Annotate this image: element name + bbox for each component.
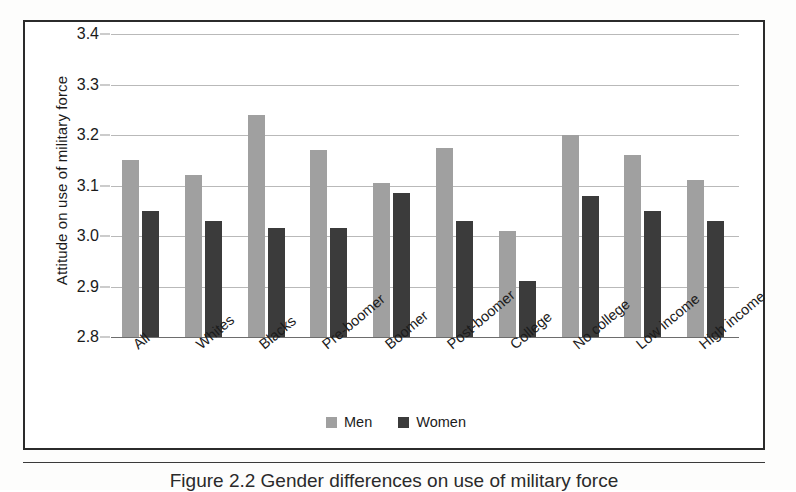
bar-group [248, 34, 285, 337]
bar-men [248, 115, 265, 337]
y-tick-mark [100, 286, 110, 287]
bar-group [185, 34, 222, 337]
bar-group [122, 34, 159, 337]
figure-frame: Attitude on use of military force 3.43.3… [23, 20, 765, 450]
legend-label: Men [344, 414, 372, 430]
bar-group [310, 34, 347, 337]
figure-caption: Figure 2.2 Gender differences on use of … [23, 470, 765, 492]
bar-men [499, 231, 516, 337]
bar-men [562, 135, 579, 337]
bar-men [310, 150, 327, 337]
y-tick-mark [100, 185, 110, 186]
y-tick-label: 3.4 [77, 25, 99, 43]
bar-group [562, 34, 599, 337]
bar-women [582, 196, 599, 337]
y-tick-mark [100, 84, 110, 85]
plot-area: 3.43.33.23.13.02.92.8 [111, 34, 739, 337]
bar-group [624, 34, 661, 337]
x-axis-labels: AllWhitesBlacksPre-boomerBoomerPost-boom… [111, 340, 739, 420]
bars-layer [111, 34, 739, 337]
y-tick-label: 2.9 [77, 278, 99, 296]
bar-men [373, 183, 390, 337]
bar-men [687, 180, 704, 337]
y-tick-label: 3.1 [77, 177, 99, 195]
legend-swatch-women [398, 417, 409, 428]
bar-men [436, 148, 453, 337]
chart-legend: MenWomen [25, 414, 767, 430]
y-tick-label: 2.8 [77, 328, 99, 346]
y-tick-label: 3.0 [77, 227, 99, 245]
y-tick-label: 3.3 [77, 76, 99, 94]
y-axis-title: Attitude on use of military force [53, 51, 70, 311]
chart-container: Attitude on use of military force 3.43.3… [25, 22, 767, 452]
legend-item-women: Women [398, 414, 466, 430]
y-tick-mark [100, 34, 110, 35]
y-tick-mark [100, 135, 110, 136]
bar-men [122, 160, 139, 337]
bar-group [436, 34, 473, 337]
y-tick-label: 3.2 [77, 126, 99, 144]
legend-label: Women [416, 414, 466, 430]
bar-women [393, 193, 410, 337]
y-tick-mark [100, 236, 110, 237]
bar-men [185, 175, 202, 337]
bar-women [142, 211, 159, 337]
legend-swatch-men [326, 417, 337, 428]
caption-divider [23, 462, 765, 463]
y-tick-mark [100, 337, 110, 338]
legend-item-men: Men [326, 414, 372, 430]
